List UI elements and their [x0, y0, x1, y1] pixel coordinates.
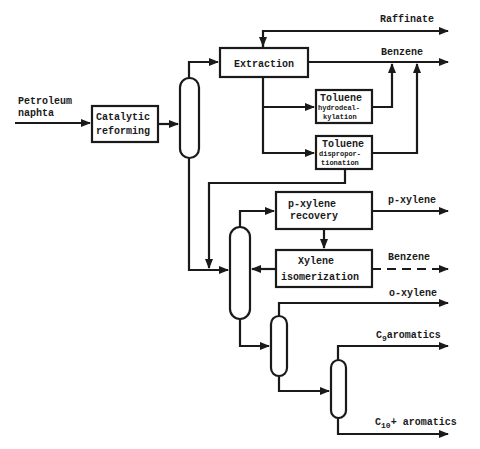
- xylene-isomerization-label-2: isomerization: [281, 272, 359, 283]
- benzene-iso-label: Benzene: [388, 252, 430, 263]
- pxylene-recovery-label-1: p-xylene: [288, 199, 336, 210]
- column-4: [331, 360, 346, 418]
- process-flow-diagram: Petroleum naphta Catalytic reforming Ext…: [0, 0, 480, 449]
- extraction-label: Extraction: [234, 59, 294, 70]
- column-1: [180, 78, 199, 158]
- toluene-disp-label-1: Toluene: [322, 139, 364, 150]
- c10-label: C10+ aromatics: [375, 417, 457, 430]
- xylene-isomerization-label-1: Xylene: [298, 256, 334, 267]
- toluene-disp-label-3: tionation: [321, 159, 359, 167]
- column-2: [230, 227, 250, 319]
- toluene-hda-label-3: kylation: [323, 113, 357, 121]
- toluene-hda-label-2: hydrodeal-: [318, 104, 360, 112]
- pxylene-label: p-xylene: [388, 195, 436, 206]
- benzene-top-label: Benzene: [381, 47, 423, 58]
- toluene-hda-label-1: Toluene: [320, 93, 362, 104]
- catalytic-reforming-label: Catalytic: [96, 112, 150, 123]
- raffinate-label: Raffinate: [380, 14, 434, 25]
- input-label-line1: Petroleum: [18, 96, 72, 107]
- c9-label: C9aromatics: [376, 330, 441, 343]
- input-label-line2: naphta: [18, 108, 54, 119]
- toluene-disp-label-2: dispropor-: [319, 150, 361, 158]
- catalytic-reforming-label-2: reforming: [96, 126, 150, 137]
- pxylene-recovery-label-2: recovery: [290, 211, 338, 222]
- column-3: [271, 316, 287, 376]
- oxylene-label: o-xylene: [389, 288, 437, 299]
